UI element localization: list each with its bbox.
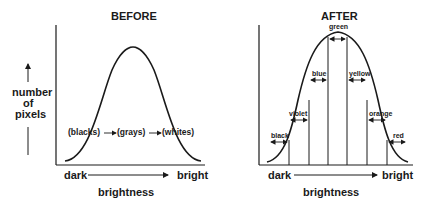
region-blacks: (blacks): [68, 128, 100, 137]
before-x-dark: dark: [64, 170, 87, 181]
after-x-bright: bright: [382, 170, 413, 181]
band-black: black: [271, 132, 289, 139]
band-blue: blue: [312, 70, 326, 77]
after-title: AFTER: [321, 11, 358, 22]
before-ylabel-line3: pixels: [15, 109, 46, 120]
after-band-dividers: [289, 37, 387, 165]
band-orange: orange: [369, 110, 392, 117]
region-grays: (grays): [117, 128, 145, 137]
before-title: BEFORE: [111, 11, 157, 22]
before-axes: [56, 25, 205, 165]
after-x-dark: dark: [268, 170, 291, 181]
before-x-bright: bright: [177, 170, 208, 181]
before-curve: [65, 47, 201, 161]
band-yellow: yellow: [349, 70, 370, 77]
region-whites: (whites): [162, 128, 194, 137]
band-green: green: [329, 23, 348, 30]
band-red: red: [393, 132, 404, 139]
band-violet: violet: [289, 110, 307, 117]
after-xlabel: brightness: [303, 187, 359, 198]
before-xlabel: brightness: [98, 187, 154, 198]
